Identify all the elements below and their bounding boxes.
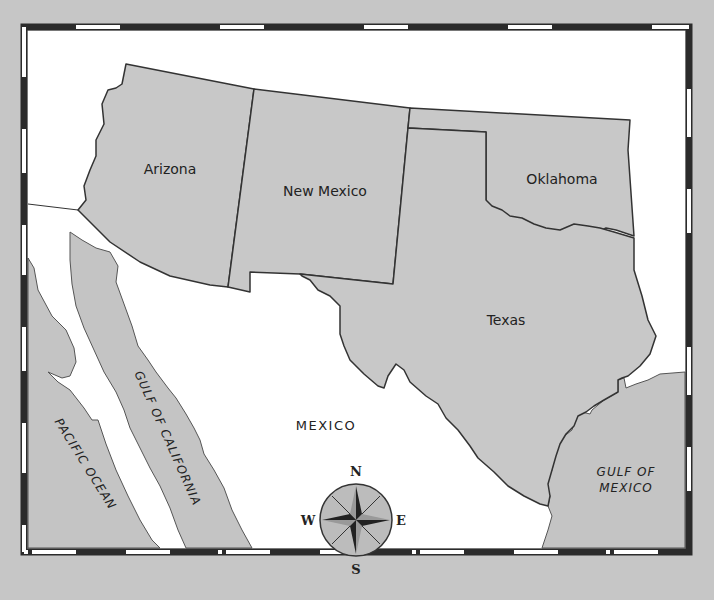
label-new-mexico: New Mexico [283, 183, 367, 199]
compass-east: E [396, 513, 406, 528]
southwest-map: Arizona New Mexico Oklahoma Texas MEXICO… [0, 0, 714, 600]
compass-west: W [300, 513, 316, 528]
compass-north: N [350, 464, 362, 479]
label-oklahoma: Oklahoma [526, 171, 597, 187]
label-mexico: MEXICO [296, 418, 356, 433]
compass-south: S [351, 562, 360, 577]
label-texas: Texas [486, 312, 526, 328]
label-arizona: Arizona [144, 161, 197, 177]
label-gulf-of-mexico-1: GULF OF [597, 465, 656, 479]
compass-rose [320, 484, 392, 556]
label-gulf-of-mexico-2: MEXICO [599, 481, 653, 495]
